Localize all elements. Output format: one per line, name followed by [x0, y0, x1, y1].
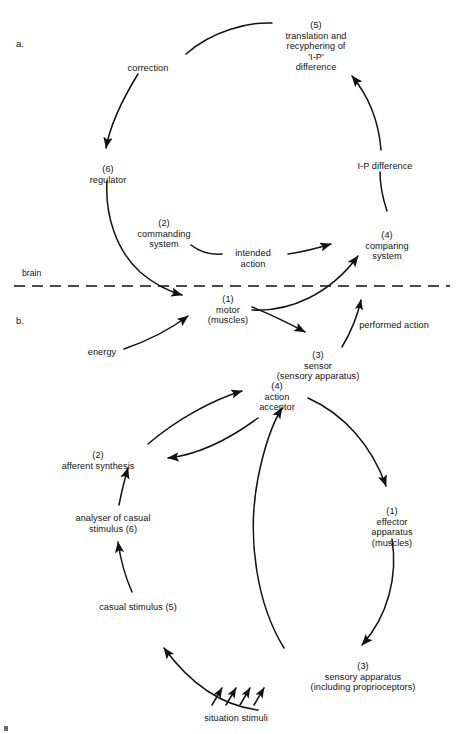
panel-a-tag: a. — [16, 38, 24, 49]
node-motor-muscles: (1) motor (muscles) — [208, 294, 248, 326]
edge-correction-to-regulator — [106, 74, 138, 148]
edge-comparing-to-ipdifference — [380, 172, 387, 211]
node-effector-apparatus: (1) effector apparatus (muscles) — [371, 506, 412, 548]
node-analyser-casual-stimulus: analyser of casual stimulus (6) — [76, 513, 151, 534]
edge-acceptor-to-afferent — [168, 418, 258, 458]
diagram-canvas — [0, 0, 456, 734]
node-sensory-apparatus: (3) sensory apparatus (including proprio… — [311, 661, 416, 693]
node-translation-recyphering: (5) translation and recyphering of 'I-P'… — [285, 20, 346, 73]
node-performed-action: performed action — [359, 320, 429, 331]
node-regulator: (6) regulator — [90, 164, 127, 185]
edge-intended-to-comparing — [288, 244, 331, 254]
node-ip-difference: I-P difference — [357, 161, 412, 172]
node-casual-stimulus: casual stimulus (5) — [99, 602, 177, 613]
node-commanding-system: (2) commanding system — [137, 218, 190, 250]
edge-energy-to-motor — [124, 316, 188, 349]
node-action-acceptor: (4) action acceptor — [259, 381, 295, 413]
edge-translation-to-correction — [186, 23, 272, 54]
figure-container: a. brain (5) translation and recyphering… — [0, 0, 456, 734]
situation-stimuli-arrow-2 — [226, 688, 236, 705]
edge-casual-stimulus-to-analyser — [118, 542, 132, 592]
edge-afferent-to-acceptor — [148, 391, 242, 444]
node-sensor: (3) sensor (sensory apparatus) — [277, 350, 360, 382]
edge-sensory-to-acceptor — [253, 408, 284, 648]
edge-commanding-to-intended — [191, 245, 222, 254]
node-correction: correction — [128, 63, 169, 74]
edge-analyser-to-afferent — [119, 468, 128, 505]
brain-divider-label: brain — [22, 268, 41, 279]
edge-effector-to-sensory — [362, 539, 394, 645]
scan-artifact-mark — [4, 726, 8, 731]
node-comparing-system: (4) comparing system — [365, 230, 408, 262]
situation-stimuli-arrow-1 — [212, 688, 222, 705]
node-afferent-synthesis: (2) afferent synthesis — [62, 450, 135, 471]
panel-b-tag: b. — [16, 315, 24, 326]
situation-stimuli-arrow-4 — [254, 688, 264, 705]
edge-ipdifference-to-translation — [352, 76, 381, 150]
edge-acceptor-to-effector — [308, 398, 386, 486]
edge-situation-to-casual-stimulus — [164, 648, 258, 710]
node-energy: energy — [88, 347, 116, 358]
node-intended-action: intended action — [235, 248, 271, 269]
node-situation-stimuli: situation stimuli — [204, 713, 268, 724]
situation-stimuli-arrow-3 — [240, 688, 250, 705]
